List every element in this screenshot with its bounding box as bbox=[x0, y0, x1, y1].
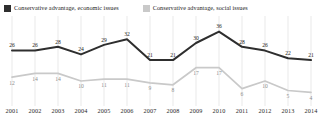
x-axis-tick-2005: 2005 bbox=[98, 107, 111, 114]
x-axis-tick-2008: 2008 bbox=[167, 107, 180, 114]
data-label: 10 bbox=[262, 83, 268, 89]
legend-label-economic: Conservative advantage, economic issues bbox=[14, 4, 119, 12]
data-label: 30 bbox=[193, 35, 199, 41]
x-axis-labels: 2001200220032004200520062007200820092010… bbox=[0, 107, 323, 125]
chart-container: Conservative advantage, economic issues … bbox=[0, 0, 323, 129]
data-label: 17 bbox=[216, 70, 222, 76]
x-axis-tick-2007: 2007 bbox=[144, 107, 157, 114]
x-axis-tick-2003: 2003 bbox=[52, 107, 65, 114]
legend-swatch-economic-icon bbox=[4, 5, 11, 12]
x-axis-tick-2009: 2009 bbox=[190, 107, 203, 114]
x-axis-tick-2002: 2002 bbox=[29, 107, 42, 114]
legend-swatch-social-icon bbox=[143, 5, 150, 12]
x-axis-tick-2001: 2001 bbox=[6, 107, 19, 114]
data-label: 14 bbox=[55, 76, 61, 82]
data-label: 21 bbox=[308, 52, 314, 58]
x-axis-tick-2014: 2014 bbox=[305, 107, 318, 114]
data-label: 28 bbox=[55, 39, 61, 45]
data-label: 11 bbox=[101, 82, 107, 88]
data-label: 21 bbox=[170, 52, 176, 58]
data-label: 22 bbox=[285, 50, 291, 56]
x-axis-tick-2006: 2006 bbox=[121, 107, 134, 114]
legend-item-economic[interactable]: Conservative advantage, economic issues bbox=[4, 2, 119, 14]
data-label: 10 bbox=[78, 83, 84, 89]
data-label: 32 bbox=[124, 31, 130, 37]
data-label: 36 bbox=[216, 23, 222, 29]
x-axis-tick-2010: 2010 bbox=[213, 107, 226, 114]
data-label: 4 bbox=[310, 95, 313, 101]
data-label: 17 bbox=[193, 70, 199, 76]
data-label: 6 bbox=[241, 91, 244, 97]
data-label: 12 bbox=[9, 80, 15, 86]
series-social-labels: 12141410111198171761054 bbox=[9, 70, 312, 101]
x-axis-tick-2004: 2004 bbox=[75, 107, 88, 114]
chart-plot-area: 12141410111198171761054 2626282429322121… bbox=[0, 14, 323, 106]
data-label: 8 bbox=[172, 87, 175, 93]
data-label: 9 bbox=[149, 85, 152, 91]
data-label: 24 bbox=[78, 46, 84, 52]
chart-legend: Conservative advantage, economic issues … bbox=[4, 2, 319, 14]
data-label: 29 bbox=[101, 37, 107, 43]
data-label: 21 bbox=[147, 52, 153, 58]
x-axis-tick-2012: 2012 bbox=[259, 107, 272, 114]
x-axis-tick-2013: 2013 bbox=[282, 107, 295, 114]
data-label: 26 bbox=[32, 42, 38, 48]
data-label: 5 bbox=[287, 93, 290, 99]
legend-item-social[interactable]: Conservative advantage, social issues bbox=[143, 2, 248, 14]
data-label: 11 bbox=[124, 82, 130, 88]
data-label: 26 bbox=[9, 42, 15, 48]
data-label: 14 bbox=[32, 76, 38, 82]
data-label: 26 bbox=[262, 42, 268, 48]
x-axis-tick-2011: 2011 bbox=[236, 107, 249, 114]
data-label: 28 bbox=[239, 39, 245, 45]
chart-svg: 12141410111198171761054 2626282429322121… bbox=[0, 14, 323, 106]
legend-label-social: Conservative advantage, social issues bbox=[153, 4, 248, 12]
